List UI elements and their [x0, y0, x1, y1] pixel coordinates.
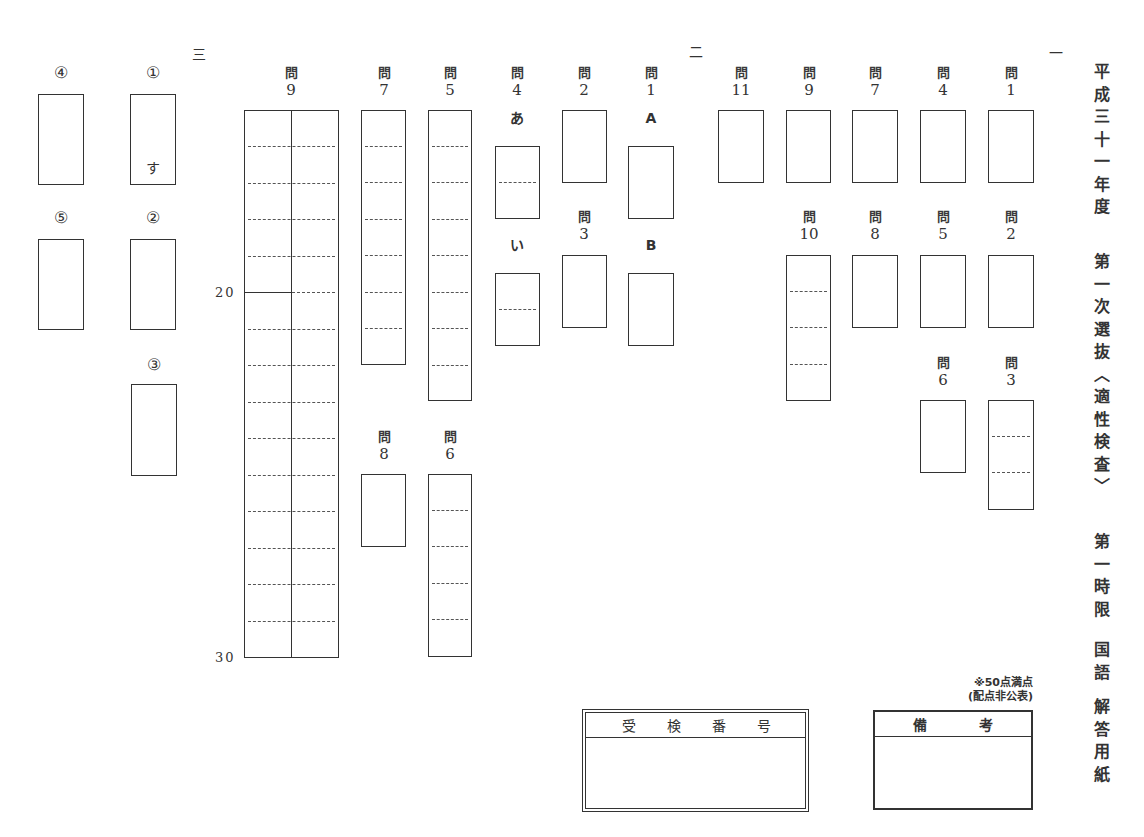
- row-divider: [432, 583, 468, 584]
- prefilled-okurigana: す: [131, 157, 175, 177]
- row-divider: [365, 292, 402, 293]
- char-count-label-30: 30: [215, 650, 236, 665]
- answer-box-ichi-9: [786, 110, 831, 183]
- kanji-box-4: [38, 94, 84, 185]
- answer-box-ichi-1: [988, 110, 1034, 183]
- question-prefix: 問: [364, 428, 404, 445]
- sub-label-ni-1-a: A: [631, 110, 671, 126]
- answer-box-ni-3: [562, 255, 607, 328]
- question-prefix: 問: [923, 354, 963, 371]
- title-subject: 国語: [1090, 641, 1112, 686]
- remarks-label-char: 備: [913, 714, 927, 734]
- exam-number-label-char: 番: [712, 715, 726, 735]
- answer-box-ichi-11: [718, 110, 764, 183]
- kanji-box-2: [130, 239, 176, 330]
- row-divider: [248, 548, 335, 549]
- row-divider: [432, 546, 468, 547]
- row-divider: [790, 327, 827, 328]
- answer-box-ni-1-a: [628, 146, 674, 219]
- question-number: 4: [923, 81, 963, 99]
- row-divider: [248, 402, 335, 403]
- score-note-line1: ※50点満点: [974, 676, 1033, 690]
- kanji-label-2: ②: [133, 209, 173, 227]
- question-label-ichi-3: 問 3: [991, 354, 1031, 389]
- question-prefix: 問: [923, 208, 963, 225]
- kanji-box-3: [131, 384, 177, 476]
- question-label-ichi-6: 問 6: [923, 354, 963, 389]
- question-number: 6: [430, 445, 470, 463]
- title-sheet: 解答用紙: [1090, 698, 1112, 788]
- answer-box-ichi-5: [920, 255, 966, 328]
- question-prefix: 問: [855, 208, 895, 225]
- row-divider: [365, 219, 402, 220]
- question-label-ichi-10: 問 10: [789, 208, 829, 243]
- question-number: 9: [271, 81, 311, 99]
- question-number: 11: [721, 81, 761, 99]
- title-exam-type: 第一次選抜〈適性検査〉: [1090, 253, 1112, 501]
- exam-number-box: 受 検 番 号: [582, 709, 809, 812]
- question-prefix: 問: [430, 428, 470, 445]
- question-number: 5: [923, 225, 963, 243]
- answer-box-ni-4-i: [495, 273, 540, 346]
- exam-number-label-char: 号: [757, 715, 771, 735]
- sub-label-ni-4-a: あ: [497, 110, 537, 126]
- answer-box-ichi-3: [988, 400, 1034, 510]
- row-divider: [790, 291, 827, 292]
- question-number: 1: [991, 81, 1031, 99]
- row-divider: [432, 619, 468, 620]
- question-prefix: 問: [789, 208, 829, 225]
- row-divider: [248, 183, 335, 184]
- kanji-label-4: ④: [41, 64, 81, 82]
- kanji-label-5: ⑤: [41, 209, 81, 227]
- question-prefix: 問: [991, 354, 1031, 371]
- row-divider: [432, 328, 468, 329]
- row-divider: [992, 472, 1030, 473]
- question-prefix: 問: [364, 64, 404, 81]
- row-divider: [992, 436, 1030, 437]
- question-number: 4: [497, 81, 537, 99]
- question-number: 8: [855, 225, 895, 243]
- row-divider: [248, 329, 335, 330]
- answer-box-ichi-2: [988, 255, 1034, 328]
- remarks-box: 備 考: [873, 710, 1033, 810]
- row-divider: [499, 309, 536, 310]
- row-divider: [365, 182, 402, 183]
- row-divider: [365, 255, 402, 256]
- row-divider: [248, 146, 335, 147]
- row-divider: [248, 365, 335, 366]
- question-number: 3: [991, 371, 1031, 389]
- row-divider: [432, 365, 468, 366]
- question-label-ichi-7: 問 7: [855, 64, 895, 99]
- row-divider: [365, 328, 402, 329]
- exam-number-label-char: 受: [622, 715, 636, 735]
- question-label-san-7: 問 7: [364, 64, 404, 99]
- row-divider: [432, 510, 468, 511]
- row-divider: [292, 292, 335, 293]
- row-divider: [248, 621, 335, 622]
- question-label-ichi-5: 問 5: [923, 208, 963, 243]
- row-divider: [248, 219, 335, 220]
- question-number: 3: [564, 225, 604, 243]
- row-divider: [432, 219, 468, 220]
- question-label-ni-1: 問 1: [631, 64, 671, 99]
- answer-box-ichi-7: [852, 110, 898, 183]
- title-year: 平成三十一年度: [1090, 63, 1112, 221]
- question-label-ni-2: 問 2: [564, 64, 604, 99]
- column-divider: [291, 111, 292, 657]
- score-note-line2: (配点非公表): [968, 690, 1033, 704]
- question-label-ichi-4: 問 4: [923, 64, 963, 99]
- sub-label-ni-1-b: B: [631, 237, 671, 253]
- question-number: 5: [430, 81, 470, 99]
- question-label-san-5: 問 5: [430, 64, 470, 99]
- section-marker-san: 三: [192, 47, 206, 61]
- question-prefix: 問: [789, 64, 829, 81]
- question-number: 1: [631, 81, 671, 99]
- answer-box-ni-2: [562, 110, 607, 183]
- answer-box-ichi-10: [786, 255, 831, 401]
- answer-box-san-7: [361, 110, 406, 365]
- title-period: 第一時限: [1090, 533, 1112, 623]
- question-label-ichi-11: 問 11: [721, 64, 761, 99]
- question-label-ni-3: 問 3: [564, 208, 604, 243]
- question-label-ichi-9: 問 9: [789, 64, 829, 99]
- question-label-san-8: 問 8: [364, 428, 404, 463]
